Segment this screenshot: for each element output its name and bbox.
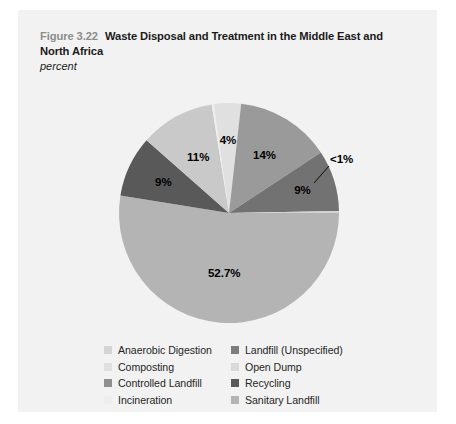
legend-item[interactable]: Recycling [231,375,391,392]
pie-slice-label: 52.7% [208,267,241,279]
legend-column-left: Anaerobic DigestionCompostingControlled … [104,342,231,408]
pie-leader-line [314,166,329,183]
legend-item[interactable]: Landfill (Unspecified) [231,342,391,359]
pie-slice-label-callout: <1% [330,153,353,165]
legend-swatch-icon [104,379,112,387]
figure-title-line: Figure 3.22Waste Disposal and Treatment … [40,29,414,58]
pie-slice-label: 14% [253,149,276,161]
legend-item[interactable]: Sanitary Landfill [231,392,391,409]
pie-slice[interactable] [214,103,241,213]
pie-slice-group [119,103,339,323]
figure-header: Figure 3.22Waste Disposal and Treatment … [40,29,414,73]
pie-slice-label: 11% [187,151,209,163]
legend-item-label: Composting [118,361,174,373]
legend-swatch-icon [104,346,112,354]
legend-swatch-icon [231,363,239,371]
pie-slice[interactable] [229,211,339,213]
legend-swatch-icon [104,363,112,371]
figure-subtitle: percent [40,60,414,73]
legend-item-label: Recycling [245,377,290,389]
pie-slice-label: 4% [220,134,237,146]
figure-number: Figure 3.22 [40,30,98,42]
legend-swatch-icon [104,396,112,404]
legend-item[interactable]: Anaerobic Digestion [104,342,231,359]
legend-item[interactable]: Composting [104,359,231,376]
legend-swatch-icon [231,346,239,354]
legend-swatch-icon [231,396,239,404]
legend-item[interactable]: Open Dump [231,359,391,376]
pie-slice[interactable] [120,140,229,213]
pie-leader-group [314,166,329,183]
chart-legend: Anaerobic DigestionCompostingControlled … [104,342,404,408]
legend-item-label: Incineration [118,394,172,406]
legend-item-label: Landfill (Unspecified) [245,344,343,356]
pie-slice[interactable] [212,104,229,213]
legend-column-right: Landfill (Unspecified)Open DumpRecycling… [231,342,391,408]
pie-slice[interactable] [229,152,339,213]
legend-swatch-icon [231,379,239,387]
legend-item[interactable]: Controlled Landfill [104,375,231,392]
pie-slice-label: 9% [155,176,172,188]
legend-item-label: Sanitary Landfill [245,394,320,406]
legend-item-label: Open Dump [245,361,302,373]
legend-item-label: Controlled Landfill [118,377,202,389]
pie-slice-label: 9% [294,184,311,196]
pie-slice[interactable] [229,104,321,213]
pie-slice[interactable] [119,196,339,323]
pie-label-group: 4%14%9%52.7%9%11%<1% [155,134,353,279]
legend-item[interactable]: Incineration [104,392,231,409]
legend-item-label: Anaerobic Digestion [118,344,212,356]
pie-slice[interactable] [147,104,229,213]
figure-card: Figure 3.22Waste Disposal and Treatment … [18,10,437,412]
